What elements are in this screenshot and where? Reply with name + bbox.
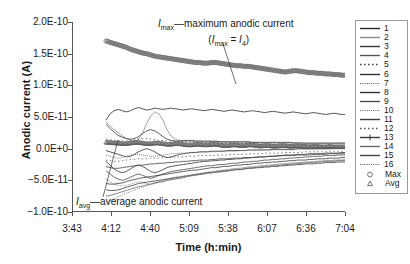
- max-annotation-line1: Imax—maximum anodic current: [158, 18, 294, 29]
- x-tick-mark: [189, 212, 190, 216]
- legend-key-14-icon: [359, 142, 381, 151]
- legend-item-13[interactable]: 13: [359, 133, 405, 142]
- legend-item-4[interactable]: 4: [359, 51, 405, 60]
- max-annotation-line2: (Imax = I4): [158, 34, 294, 50]
- y-tick-label: 2.0E-10: [8, 17, 68, 27]
- legend-item-9[interactable]: 9: [359, 97, 405, 106]
- legend-item-1[interactable]: 1: [359, 24, 405, 33]
- legend-item-5[interactable]: 5: [359, 60, 405, 69]
- legend-item-14[interactable]: 14: [359, 142, 405, 151]
- legend-key-9-icon: [359, 97, 381, 106]
- legend-key-7-icon: [359, 79, 381, 88]
- legend-key-4-icon: [359, 51, 381, 60]
- legend-key-2-icon: [359, 33, 381, 42]
- legend-key-max-icon: [359, 170, 381, 179]
- legend-label: Avg: [381, 179, 400, 188]
- legend-key-6-icon: [359, 70, 381, 79]
- y-tick-label: 0.0E+0: [8, 144, 68, 154]
- y-tick-mark: [68, 85, 72, 86]
- series-line-1: [106, 108, 345, 121]
- legend-key-3-icon: [359, 42, 381, 51]
- avg-annotation: Iavg—average anodic current: [76, 196, 202, 212]
- x-tick-mark: [111, 212, 112, 216]
- x-tick-mark: [267, 212, 268, 216]
- y-tick-mark: [68, 117, 72, 118]
- x-axis-title: Time (h:min): [72, 241, 345, 253]
- legend-key-12-icon: [359, 124, 381, 133]
- legend-key-11-icon: [359, 115, 381, 124]
- legend-key-13-icon: [359, 133, 381, 142]
- y-tick-label: 5.0E-11: [8, 112, 68, 122]
- max-annotation: Imax—maximum anodic current (Imax = I4): [158, 18, 294, 50]
- y-tick-mark: [68, 180, 72, 181]
- x-tick-label: 5:09: [179, 224, 198, 234]
- y-tick-mark: [68, 54, 72, 55]
- x-tick-label: 6:36: [296, 224, 315, 234]
- legend-item-6[interactable]: 6: [359, 69, 405, 78]
- legend-key-8-icon: [359, 88, 381, 97]
- legend-key-5-icon: [359, 60, 381, 69]
- x-tick-label: 4:12: [101, 224, 120, 234]
- x-axis-tick-labels: 3:434:124:405:095:386:076:367:04: [0, 216, 410, 232]
- y-tick-mark: [68, 149, 72, 150]
- x-tick-mark: [345, 212, 346, 216]
- avg-annotation-line1: Iavg—average anodic current: [76, 196, 202, 207]
- series-canvas: [73, 22, 345, 212]
- x-tick-mark: [306, 212, 307, 216]
- y-tick-label: 1.5E-10: [8, 49, 68, 59]
- legend-item-11[interactable]: 11: [359, 115, 405, 124]
- legend-item-12[interactable]: 12: [359, 124, 405, 133]
- legend-key-avg-icon: [359, 179, 381, 188]
- x-tick-mark: [228, 212, 229, 216]
- legend-key-15-icon: [359, 151, 381, 160]
- x-tick-label: 5:38: [218, 224, 237, 234]
- legend-item-avg[interactable]: Avg: [359, 179, 405, 188]
- y-tick-label: 1.0E-10: [8, 80, 68, 90]
- x-tick-label: 4:40: [140, 224, 159, 234]
- legend-item-15[interactable]: 15: [359, 151, 405, 160]
- legend-item-3[interactable]: 3: [359, 42, 405, 51]
- legend-item-7[interactable]: 7: [359, 79, 405, 88]
- legend-key-10-icon: [359, 106, 381, 115]
- plot-area: [72, 22, 345, 212]
- legend-key-1-icon: [359, 24, 381, 33]
- legend-item-10[interactable]: 10: [359, 106, 405, 115]
- legend-item-8[interactable]: 8: [359, 88, 405, 97]
- x-tick-label: 3:43: [62, 224, 81, 234]
- legend[interactable]: 12345678910111213141516MaxAvg: [355, 20, 408, 194]
- x-tick-label: 6:07: [257, 224, 276, 234]
- series-line-3: [106, 125, 345, 143]
- y-tick-mark: [68, 22, 72, 23]
- x-tick-mark: [72, 212, 73, 216]
- series-line-10: [106, 159, 345, 186]
- legend-item-2[interactable]: 2: [359, 33, 405, 42]
- legend-key-16-icon: [359, 160, 381, 169]
- y-tick-label: −5.0E-11: [8, 175, 68, 185]
- x-tick-mark: [150, 212, 151, 216]
- x-tick-label: 7:04: [335, 224, 354, 234]
- anodic-current-chart: Anodic current (A) 2.0E-101.5E-101.0E-10…: [0, 0, 410, 264]
